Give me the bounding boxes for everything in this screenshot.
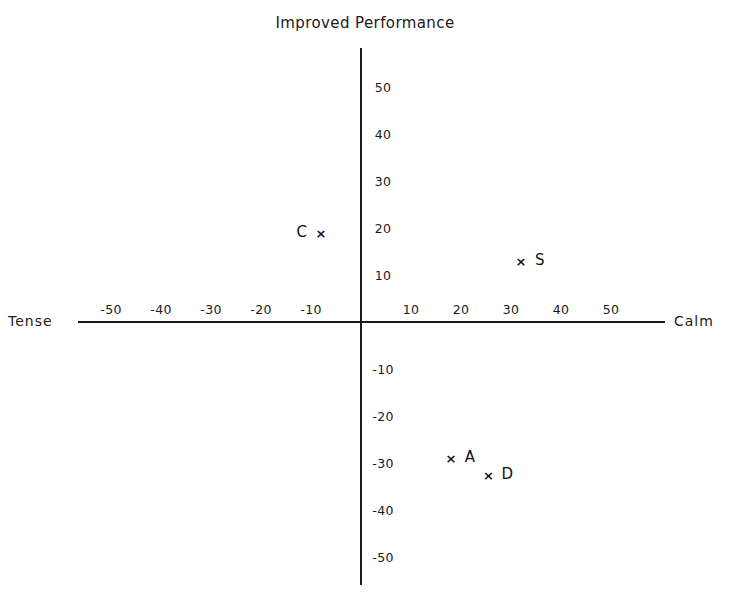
y-tick-label: -50 bbox=[372, 550, 393, 565]
y-tick-label: 30 bbox=[375, 174, 392, 189]
x-axis-line bbox=[78, 321, 665, 323]
data-point-label-d: D bbox=[502, 466, 514, 481]
data-point-label-s: S bbox=[535, 252, 545, 267]
data-point-label-c: C bbox=[297, 224, 308, 239]
y-tick-label: -40 bbox=[372, 503, 393, 518]
page-title: Improved Performance bbox=[0, 14, 730, 32]
data-point-marker-d: × bbox=[483, 468, 494, 481]
x-tick-label: 50 bbox=[603, 302, 620, 317]
data-point-label-a: A bbox=[465, 450, 476, 465]
y-tick-label: -20 bbox=[372, 409, 393, 424]
y-tick-label: -10 bbox=[372, 362, 393, 377]
x-tick-label: 10 bbox=[403, 302, 420, 317]
x-tick-label: 20 bbox=[453, 302, 470, 317]
x-axis-label-left: Tense bbox=[8, 313, 53, 329]
x-tick-label: 40 bbox=[553, 302, 570, 317]
y-tick-label: 40 bbox=[375, 127, 392, 142]
y-axis-line bbox=[360, 48, 362, 585]
scatter-plot: Improved Performance Tense Calm -50-40-3… bbox=[0, 0, 730, 600]
x-axis-label-right: Calm bbox=[674, 313, 714, 329]
y-tick-label: 10 bbox=[375, 268, 392, 283]
data-point-marker-c: × bbox=[316, 226, 327, 239]
y-tick-label: -30 bbox=[372, 456, 393, 471]
x-tick-label: -30 bbox=[200, 302, 221, 317]
x-tick-label: -10 bbox=[300, 302, 321, 317]
x-tick-label: -50 bbox=[100, 302, 121, 317]
data-point-marker-a: × bbox=[446, 452, 457, 465]
y-tick-label: 50 bbox=[375, 80, 392, 95]
y-tick-label: 20 bbox=[375, 221, 392, 236]
x-tick-label: -40 bbox=[150, 302, 171, 317]
data-point-marker-s: × bbox=[516, 254, 527, 267]
x-tick-label: 30 bbox=[503, 302, 520, 317]
x-tick-label: -20 bbox=[250, 302, 271, 317]
